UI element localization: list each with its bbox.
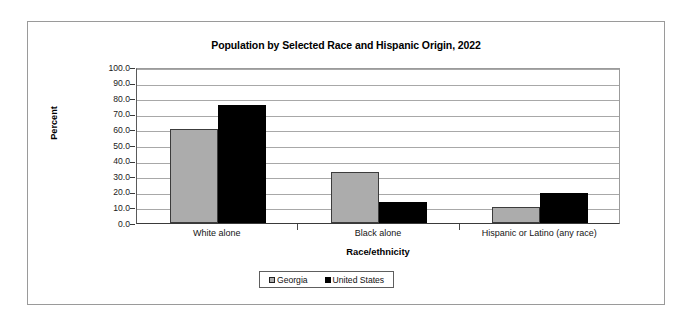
y-axis-tick-mark (130, 115, 135, 116)
legend-swatch-icon (325, 277, 331, 283)
y-axis-tick-mark (130, 177, 135, 178)
legend-swatch-icon (269, 277, 275, 283)
x-axis-tick-label: White alone (136, 228, 297, 238)
y-axis-tick-label: 70.0 (88, 110, 130, 119)
y-axis-tick-label: 30.0 (88, 173, 130, 182)
bar[interactable] (492, 207, 540, 223)
chart-title: Population by Selected Race and Hispanic… (28, 39, 664, 51)
legend-entry[interactable]: Georgia (269, 275, 308, 285)
y-axis-title: Percent (49, 93, 59, 153)
x-axis-tick-labels: White aloneBlack aloneHispanic or Latino… (136, 228, 620, 242)
bar[interactable] (170, 129, 218, 223)
y-axis-tick-label: 50.0 (88, 142, 130, 151)
plot-area (136, 68, 620, 224)
y-axis-tick-label: 10.0 (88, 204, 130, 213)
y-axis-tick-mark (130, 146, 135, 147)
x-axis-separator-tick (459, 224, 460, 230)
x-axis-separator-tick (297, 224, 298, 230)
y-axis-tick-mark (130, 130, 135, 131)
y-axis-tick-mark (130, 193, 135, 194)
y-axis-tick-labels: 100.090.080.070.060.050.040.030.020.010.… (84, 68, 130, 224)
chart-legend: GeorgiaUnited States (259, 271, 394, 288)
y-axis-tick-mark (130, 208, 135, 209)
y-axis-tick-mark (130, 162, 135, 163)
bar-group (170, 69, 266, 223)
x-axis-tick-label: Black alone (297, 228, 458, 238)
legend-label: United States (333, 275, 385, 285)
y-axis-tick-mark (130, 224, 135, 225)
chart-frame: Population by Selected Race and Hispanic… (27, 21, 665, 305)
bar-group (331, 69, 427, 223)
bar[interactable] (540, 193, 588, 223)
y-axis-tick-label: 100.0 (88, 64, 130, 73)
y-axis-tick-mark (130, 84, 135, 85)
legend-label: Georgia (277, 275, 308, 285)
bar[interactable] (331, 172, 379, 223)
bars-layer (137, 69, 619, 223)
bar-group (492, 69, 588, 223)
y-axis-tick-label: 60.0 (88, 126, 130, 135)
legend-entry[interactable]: United States (325, 275, 385, 285)
x-axis-tick-label: Hispanic or Latino (any race) (459, 228, 620, 238)
bar[interactable] (218, 105, 266, 223)
y-axis-tick-label: 80.0 (88, 95, 130, 104)
y-axis-tick-label: 20.0 (88, 188, 130, 197)
y-axis-tick-mark (130, 99, 135, 100)
x-axis-title: Race/ethnicity (136, 246, 620, 257)
y-axis-tick-mark (130, 68, 135, 69)
bar[interactable] (379, 202, 427, 223)
y-axis-tick-label: 40.0 (88, 157, 130, 166)
y-axis-tick-label: 90.0 (88, 79, 130, 88)
y-axis-tick-label: 0.0 (88, 220, 130, 229)
